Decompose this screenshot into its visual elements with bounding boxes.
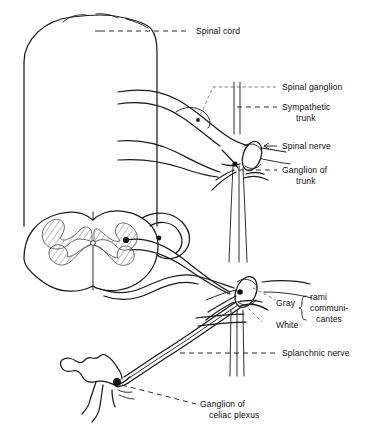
dorsal-loop-dot xyxy=(157,236,162,241)
label-spinal-ganglion: Spinal ganglion xyxy=(282,82,342,92)
label-spinal-cord: Spinal cord xyxy=(196,26,240,36)
label-rami-line1: rami xyxy=(310,292,327,302)
label-ganglion-celiac-line2: celiac plexus xyxy=(209,410,260,420)
label-rami-line3: cantes xyxy=(316,314,342,324)
label-rami-line2: communi- xyxy=(310,303,349,313)
lower-ganglion-neuron-dot xyxy=(237,289,243,295)
celiac-ganglion-dot xyxy=(113,378,121,386)
spinal-cord-cross-section xyxy=(24,211,161,291)
label-gray: Gray xyxy=(276,298,296,308)
upper-ganglion-neuron-dot xyxy=(232,161,237,166)
label-splanchnic-nerve: Splanchnic nerve xyxy=(282,348,350,358)
central-canal xyxy=(91,241,96,246)
diagram-canvas: Spinal cord Spinal ganglion Sympathetic … xyxy=(0,0,365,436)
label-sympathetic-trunk-line2: trunk xyxy=(296,113,316,123)
label-ganglion-of-trunk-line2: trunk xyxy=(296,176,316,186)
label-ganglion-of-trunk-line1: Ganglion of xyxy=(282,165,328,175)
label-white: White xyxy=(276,320,299,330)
label-ganglion-celiac-line1: Ganglion of xyxy=(200,399,246,409)
label-sympathetic-trunk-line1: Sympathetic xyxy=(282,102,331,112)
label-spinal-nerve: Spinal nerve xyxy=(282,141,331,151)
anatomical-figure: Spinal cord Spinal ganglion Sympathetic … xyxy=(0,0,365,436)
